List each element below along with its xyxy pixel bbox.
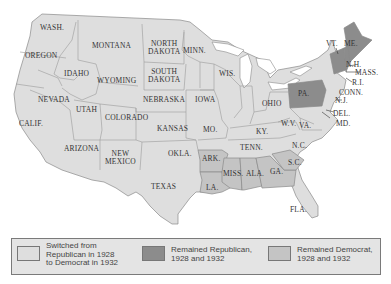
label-okla: OKLA.: [168, 150, 192, 158]
label-new-mexico: NEWMEXICO: [105, 150, 136, 166]
label-ga: GA.: [270, 168, 283, 176]
label-wyoming: WYOMING: [97, 77, 136, 85]
legend-item-democrat: Remained Democrat, 1928 and 1932: [268, 242, 373, 263]
label-mo: MO.: [203, 126, 218, 134]
label-minn: MINN.: [183, 47, 206, 55]
label-nebraska: NEBRASKA: [143, 96, 185, 104]
label-pa: PA.: [298, 90, 309, 98]
label-vt: VT.: [326, 40, 338, 48]
label-fla: FLA.: [290, 206, 307, 214]
label-wis: WIS.: [219, 70, 235, 78]
label-conn: CONN.: [339, 89, 363, 97]
legend-item-switched: Switched from Republican in 1928 to Demo…: [17, 242, 118, 268]
label-va: VA.: [299, 122, 311, 130]
label-south-dakota: SOUTHDAKOTA: [148, 68, 180, 84]
label-del: DEL.: [333, 110, 350, 118]
label-nc: N.C.: [292, 142, 307, 150]
label-mass: MASS.: [355, 69, 378, 77]
label-nj: N.J.: [335, 97, 348, 105]
label-arizona: ARIZONA: [64, 145, 99, 153]
label-nevada: NEVADA: [38, 96, 70, 104]
legend-swatch-switched: [17, 246, 40, 261]
label-idaho: IDAHO: [64, 70, 89, 78]
label-texas: TEXAS: [151, 183, 176, 191]
legend-item-republican: Remained Republican, 1928 and 1932: [142, 242, 252, 263]
label-utah: UTAH: [76, 106, 97, 114]
label-sc: S.C.: [288, 159, 302, 167]
label-iowa: IOWA: [195, 96, 215, 104]
label-ky: KY.: [256, 128, 268, 136]
label-nh: N.H.: [346, 61, 361, 69]
label-montana: MONTANA: [92, 42, 131, 50]
legend-swatch-republican: [142, 246, 165, 261]
label-ark: ARK.: [202, 155, 221, 163]
label-tenn: TENN.: [240, 144, 263, 152]
label-ohio: OHIO: [262, 100, 282, 108]
label-la: LA.: [206, 184, 218, 192]
label-me: ME.: [344, 40, 358, 48]
map-legend: Switched from Republican in 1928 to Demo…: [11, 238, 381, 275]
label-wv: W.V.: [281, 120, 296, 128]
label-kansas: KANSAS: [157, 125, 188, 133]
label-calif: CALIF.: [19, 120, 43, 128]
label-miss: MISS.: [223, 170, 243, 178]
label-colorado: COLORADO: [105, 114, 148, 122]
label-oregon: OREGON: [25, 52, 57, 60]
legend-swatch-democrat: [268, 246, 291, 261]
label-wash: WASH.: [40, 24, 64, 32]
label-ala: ALA.: [246, 170, 264, 178]
label-north-dakota: NORTHDAKOTA: [148, 40, 180, 56]
label-md: MD.: [336, 120, 351, 128]
label-ri: R.I.: [352, 79, 364, 87]
